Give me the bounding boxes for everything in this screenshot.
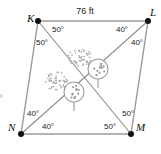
- shrub-speckle: [53, 86, 55, 88]
- angle-label-l-2: 40°: [116, 25, 128, 34]
- shrub-speckle: [47, 77, 49, 79]
- vertex-dot-l: [145, 18, 151, 24]
- tree-foliage-dot: [100, 63, 102, 65]
- angle-label-n-4: 40°: [27, 109, 39, 118]
- shrub-speckle: [55, 89, 57, 91]
- shrub-speckle: [55, 75, 57, 77]
- shrub-speckle: [50, 78, 52, 80]
- shrub-speckle: [60, 86, 62, 88]
- tree-foliage-dot: [78, 89, 80, 91]
- shrub-speckle: [83, 63, 85, 65]
- scan-artifact: [0, 94, 3, 98]
- shrub-speckle: [55, 77, 57, 79]
- shrub-speckle: [48, 74, 50, 76]
- shrub-speckle: [68, 58, 70, 60]
- shrub-speckle: [89, 57, 91, 59]
- angle-label-m-7: 50°: [104, 122, 116, 131]
- shrub-speckle: [78, 50, 80, 52]
- shrub-speckle: [64, 81, 66, 83]
- side-length-label-kl: 76 ft: [76, 6, 94, 16]
- shrub-speckle: [63, 76, 65, 78]
- tree-foliage-dot: [75, 85, 77, 87]
- shrub-speckle: [50, 80, 52, 82]
- figure-canvas: K L M N 76 ft 50°50°40°40°40°40°50°50°: [0, 0, 161, 154]
- shrub-speckle: [66, 81, 68, 83]
- shrub-speckle: [85, 61, 87, 63]
- shrub-speckle: [86, 63, 88, 65]
- angle-label-k-1: 50°: [36, 38, 48, 47]
- shrub-speckle: [83, 56, 85, 58]
- shrub-speckle: [76, 63, 78, 65]
- vertex-label-n: N: [7, 121, 16, 133]
- shrub-speckle: [80, 51, 82, 53]
- shrub-speckle: [51, 74, 53, 76]
- shrub-speckle: [69, 51, 71, 53]
- tree-foliage-dot: [93, 67, 95, 69]
- vertex-dot-n: [18, 131, 24, 137]
- tree-group: [64, 59, 108, 111]
- shrub-speckle: [78, 55, 80, 57]
- angle-label-m-6: 50°: [122, 109, 134, 118]
- tree-foliage-dot: [74, 96, 76, 98]
- tree-left: [64, 82, 84, 111]
- shrub-speckle: [55, 80, 57, 82]
- shrub-speckle: [66, 80, 68, 82]
- tree-foliage-dot: [99, 67, 101, 69]
- tree-foliage-dot: [100, 65, 102, 67]
- shrub-speckle: [83, 50, 85, 52]
- shrub-speckle: [49, 88, 51, 90]
- shrub-speckle: [79, 60, 81, 62]
- shrub-speckle: [78, 65, 80, 67]
- shrub-speckle: [89, 53, 91, 55]
- shrub-speckle: [63, 85, 65, 87]
- shrub-speckle: [86, 53, 88, 55]
- shrub-speckle: [80, 57, 82, 59]
- shrub-speckle: [45, 81, 47, 83]
- shrub-speckle: [58, 80, 60, 82]
- shrub-speckle: [88, 54, 90, 56]
- shrub-speckle: [81, 59, 83, 61]
- tree-right: [88, 59, 108, 88]
- shrub-speckle: [82, 49, 84, 51]
- shrub-speckle: [54, 82, 56, 84]
- shrub-speckle: [74, 50, 76, 52]
- vertex-label-k: K: [26, 12, 35, 24]
- angle-label-k-0: 50°: [52, 25, 64, 34]
- tree-foliage-dot: [75, 89, 77, 91]
- geometry-figure: K L M N 76 ft 50°50°40°40°40°40°50°50°: [0, 0, 161, 154]
- shrub-right: [68, 49, 92, 67]
- shrub-speckle: [71, 54, 73, 56]
- tree-foliage-dot: [95, 74, 97, 76]
- tree-canopy: [88, 59, 108, 79]
- shrub-speckle: [59, 84, 61, 86]
- vertex-dot-k: [35, 18, 41, 24]
- shrub-speckle: [88, 51, 90, 53]
- shrub-speckle: [70, 62, 72, 64]
- shrub-speckle: [65, 78, 67, 80]
- tree-foliage-dot: [101, 66, 103, 68]
- tree-foliage-dot: [96, 70, 98, 72]
- shrub-speckle: [61, 72, 63, 74]
- angle-label-l-3: 40°: [131, 38, 143, 47]
- shrub-speckle: [51, 86, 53, 88]
- vertex-dot-m: [128, 131, 134, 137]
- vertex-label-m: M: [135, 121, 146, 133]
- shrub-speckle: [75, 52, 77, 54]
- tree-foliage-dot: [98, 72, 100, 74]
- shrub-speckle: [75, 61, 77, 63]
- tree-foliage-dot: [72, 86, 74, 88]
- tree-foliage-dot: [77, 93, 79, 95]
- tree-foliage-dot: [70, 96, 72, 98]
- vertex-label-l: L: [149, 6, 156, 18]
- shrub-speckle: [68, 55, 70, 57]
- angle-label-n-5: 40°: [42, 122, 54, 131]
- tree-foliage-dot: [103, 70, 105, 72]
- shrub-speckle: [69, 60, 71, 62]
- tree-foliage-dot: [72, 93, 74, 95]
- shrub-speckle: [57, 71, 59, 73]
